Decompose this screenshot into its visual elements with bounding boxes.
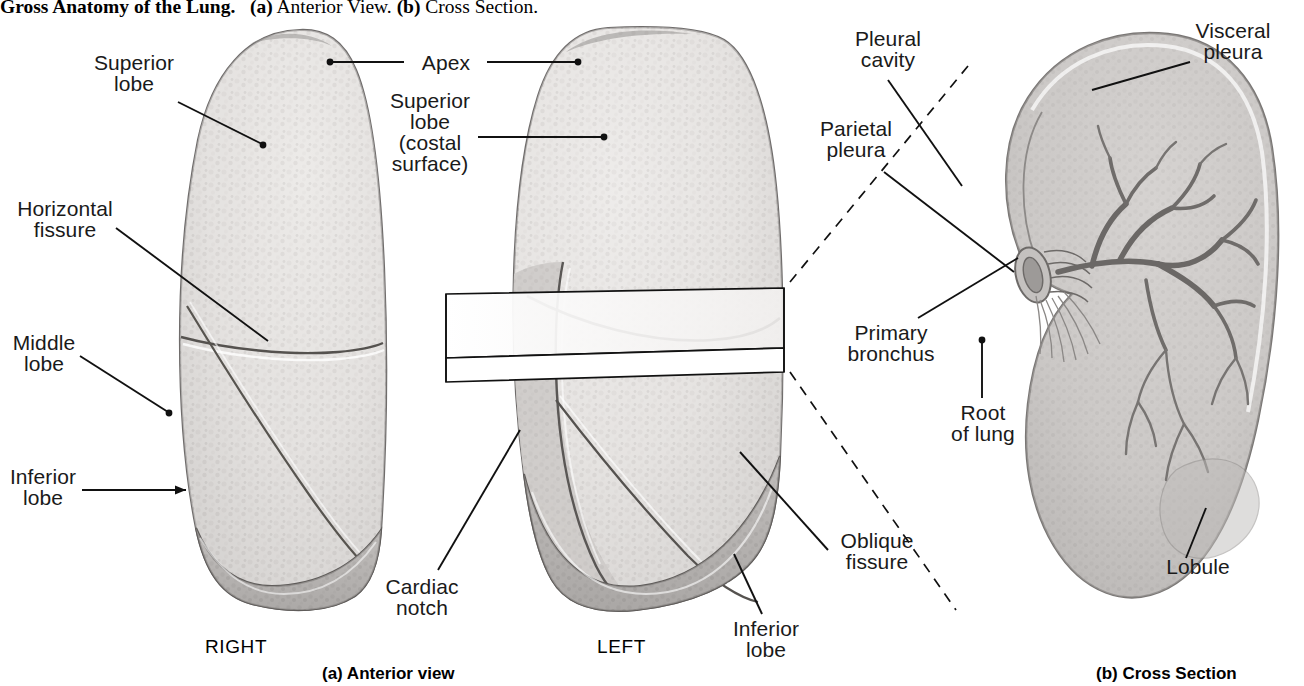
label-superior-lobe-right: Superior lobe [88,52,180,94]
figure-canvas: Gross Anatomy of the Lung. (a) Anterior … [0,0,1304,686]
leader-parietal-pleura [884,172,1014,272]
label-apex: Apex [410,52,482,73]
leader-dot-middle-lobe [166,410,173,417]
lobule-region [1160,459,1259,558]
leader-dot-root-of-lung [979,337,986,344]
orientation-left: LEFT [597,636,646,658]
orientation-right: RIGHT [205,636,267,658]
cross-section-group [1006,33,1278,597]
leader-dot-superior-lobe-costal [601,134,608,141]
lung-illustration [0,0,1304,686]
label-root-of-lung: Root of lung [942,402,1024,444]
label-inferior-lobe-right: Inferior lobe [4,466,82,508]
label-pleural-cavity: Pleural cavity [846,28,930,70]
leader-dot-apex-right [575,59,582,66]
label-inferior-lobe-left: Inferior lobe [726,618,806,660]
label-superior-lobe-costal: Superior lobe (costal surface) [382,90,478,174]
label-horizontal-fissure: Horizontal fissure [12,198,118,240]
label-visceral-pleura: Visceral pleura [1190,20,1276,62]
projection-line-upper [790,66,968,282]
label-lobule: Lobule [1156,556,1240,577]
label-parietal-pleura: Parietal pleura [816,118,896,160]
caption-panel-b: (b) Cross Section [1096,664,1237,684]
cutting-plane-slab-top [446,288,784,358]
leader-pleural-cavity [888,80,962,186]
label-oblique-fissure: Oblique fissure [832,530,922,572]
leader-dot-superior-lobe [260,142,267,149]
leader-arrow-inferior-lobe-right [175,485,186,494]
leader-cardiac-notch [438,430,520,570]
right-lung-group [180,30,386,610]
label-primary-bronchus: Primary bronchus [840,322,942,364]
right-lung-texture [180,30,386,610]
projection-line-lower [790,372,956,610]
leader-middle-lobe [80,356,168,412]
caption-panel-a: (a) Anterior view [322,664,455,684]
label-middle-lobe: Middle lobe [6,332,82,374]
leader-dot-apex-left [327,59,334,66]
cutting-plane [446,288,784,382]
leader-primary-bronchus [918,258,1018,318]
label-cardiac-notch: Cardiac notch [378,576,466,618]
